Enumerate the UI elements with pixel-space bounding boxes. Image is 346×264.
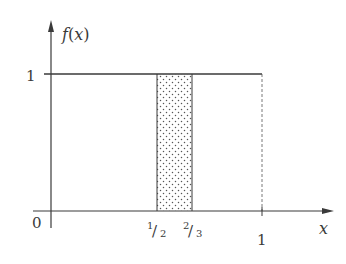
y-axis-label: f(x) [61, 25, 89, 44]
x-axis-label: x [319, 219, 328, 238]
y-tick-label-one: 1 [26, 67, 36, 85]
svg-text:/: / [188, 222, 194, 240]
x-axis-arrow-icon [322, 208, 334, 214]
svg-text:/: / [152, 222, 158, 240]
svg-text:3: 3 [196, 228, 202, 239]
x-tick-label-two-thirds: 2 / 3 [183, 220, 202, 240]
y-axis [48, 20, 54, 228]
shaded-region [157, 74, 192, 211]
svg-text:2: 2 [160, 228, 166, 239]
x-tick-label-one: 1 [257, 231, 267, 249]
density-diagram: f(x) 1 0 1 / 2 2 / 3 1 x [0, 0, 346, 264]
x-tick-label-half: 1 / 2 [147, 220, 166, 240]
y-axis-arrow-icon [48, 20, 54, 32]
origin-label: 0 [32, 214, 42, 232]
